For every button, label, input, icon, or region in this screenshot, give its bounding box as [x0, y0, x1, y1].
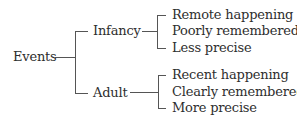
leaf-remote-happening: Remote happening [172, 8, 293, 22]
root-connector-line [55, 57, 75, 58]
leaf-recent-happening: Recent happening [172, 68, 289, 82]
infancy-branch-line [75, 31, 88, 32]
leaf-poorly-remembered: Poorly remembered [172, 24, 297, 38]
leaf-less-precise: Less precise [172, 41, 251, 55]
tree-diagram: Events Infancy Remote happening Poorly r… [0, 0, 297, 121]
adult-leaf-line-1 [158, 75, 166, 76]
infancy-leaf-line-3 [157, 48, 166, 49]
adult-leaf-line-3 [158, 108, 166, 109]
adult-connector-line [130, 92, 158, 93]
branch-node-infancy: Infancy [93, 24, 141, 38]
adult-bracket-line [158, 75, 159, 109]
branch-node-adult: Adult [93, 86, 127, 100]
root-node-events: Events [13, 50, 57, 64]
infancy-bracket-line [157, 15, 158, 49]
leaf-clearly-remembered: Clearly remembered [172, 85, 297, 99]
leaf-more-precise: More precise [172, 101, 257, 115]
infancy-leaf-line-1 [157, 15, 166, 16]
infancy-connector-line [142, 31, 157, 32]
level1-bracket-line [75, 31, 76, 94]
adult-branch-line [75, 93, 88, 94]
